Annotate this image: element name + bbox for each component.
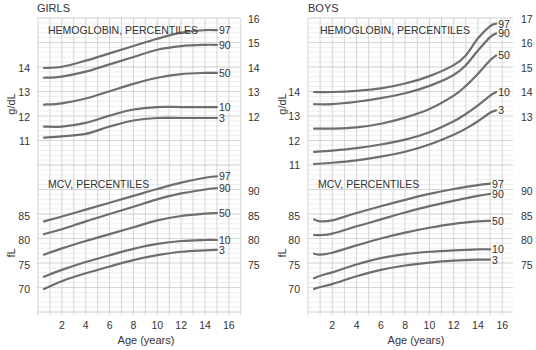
- percentile-label: 90: [219, 39, 231, 51]
- percentile-label: 50: [219, 207, 231, 219]
- y-tick-right: 85: [248, 210, 260, 222]
- girls-mcv-title: MCV, PERCENTILES: [48, 178, 149, 190]
- percentile-label: 3: [219, 244, 225, 256]
- girls-panel: 979050103979050103 246810121416111213141…: [5, 2, 260, 346]
- x-tick-label: 12: [448, 319, 460, 331]
- x-tick-label: 6: [378, 319, 384, 331]
- girls-xlabel: Age (years): [118, 334, 175, 346]
- percentile-label: 3: [492, 254, 498, 266]
- x-tick-label: 4: [354, 319, 360, 331]
- girls-curves: 979050103979050103: [44, 24, 231, 289]
- percentile-label: 97: [219, 24, 231, 36]
- y-tick-right: 16: [248, 13, 260, 25]
- x-tick-label: 14: [472, 319, 484, 331]
- y-tick-right: 75: [248, 259, 260, 271]
- percentile-label: 3: [219, 112, 225, 124]
- y-tick-left: 80: [288, 234, 300, 246]
- percentile-curve-3: [314, 260, 490, 289]
- percentile-label: 90: [219, 182, 231, 194]
- girls-grid: [37, 18, 241, 315]
- x-tick-label: 16: [223, 319, 235, 331]
- percentile-label: 90: [498, 27, 510, 39]
- y-tick-right: 75: [521, 259, 533, 271]
- girls-hgb-title: HEMOGLOBIN, PERCENTILES: [48, 24, 198, 36]
- girls-hgb-ylabel: g/dL: [5, 93, 17, 114]
- boys-mcv-title: MCV, PERCENTILES: [318, 178, 419, 190]
- y-tick-right: 13: [521, 111, 533, 123]
- y-tick-right: 80: [248, 234, 260, 246]
- y-tick-left: 14: [18, 62, 30, 74]
- percentile-label: 97: [219, 170, 231, 182]
- y-tick-right: 15: [521, 62, 533, 74]
- boys-mcv-ylabel: fL: [276, 248, 288, 257]
- y-tick-left: 70: [288, 283, 300, 295]
- percentile-label: 10: [498, 86, 510, 98]
- percentile-label: 50: [492, 215, 504, 227]
- x-tick-label: 8: [402, 319, 408, 331]
- boys-ticks: 2468101214161112131413141516177075808575…: [288, 13, 533, 331]
- x-tick-label: 10: [424, 319, 436, 331]
- y-tick-left: 14: [288, 86, 300, 98]
- y-tick-left: 12: [288, 135, 300, 147]
- percentile-curve-3: [44, 250, 217, 289]
- x-tick-label: 10: [151, 319, 163, 331]
- boys-hgb-ylabel: g/dL: [276, 93, 288, 114]
- x-tick-label: 14: [199, 319, 211, 331]
- percentile-label: 3: [498, 104, 504, 116]
- x-tick-label: 12: [175, 319, 187, 331]
- y-tick-left: 11: [19, 135, 30, 147]
- y-tick-left: 85: [18, 210, 30, 222]
- x-tick-label: 4: [83, 319, 89, 331]
- y-tick-right: 80: [521, 234, 533, 246]
- y-tick-right: 16: [521, 37, 533, 49]
- boys-title: BOYS: [308, 2, 339, 14]
- x-tick-label: 6: [107, 319, 113, 331]
- girls-mcv-ylabel: fL: [5, 248, 17, 257]
- x-tick-label: 2: [59, 319, 65, 331]
- y-tick-left: 75: [18, 259, 30, 271]
- boys-panel: 979050103979050103 246810121416111213141…: [276, 2, 533, 346]
- percentile-curve-10: [314, 249, 490, 278]
- y-tick-right: 17: [521, 13, 533, 25]
- y-tick-right: 14: [521, 86, 533, 98]
- x-tick-label: 16: [496, 319, 508, 331]
- y-tick-right: 90: [521, 185, 533, 197]
- y-tick-left: 12: [18, 111, 30, 123]
- percentile-curve-50: [44, 73, 217, 105]
- percentile-curve-10: [44, 107, 217, 127]
- y-tick-left: 11: [289, 159, 300, 171]
- percentile-label: 50: [219, 67, 231, 79]
- girls-title: GIRLS: [37, 2, 70, 14]
- percentile-label: 90: [492, 188, 504, 200]
- y-tick-left: 80: [18, 234, 30, 246]
- boys-xlabel: Age (years): [388, 334, 445, 346]
- percentile-label: 50: [498, 49, 510, 61]
- x-tick-label: 8: [131, 319, 137, 331]
- y-tick-left: 75: [288, 259, 300, 271]
- y-tick-right: 90: [248, 185, 260, 197]
- y-tick-right: 14: [248, 62, 260, 74]
- y-tick-right: 13: [248, 86, 260, 98]
- y-tick-left: 70: [18, 283, 30, 295]
- percentile-charts: 979050103979050103 246810121416111213141…: [0, 0, 536, 350]
- y-tick-left: 13: [18, 86, 30, 98]
- y-tick-right: 15: [248, 37, 260, 49]
- y-tick-left: 13: [288, 110, 300, 122]
- y-tick-right: 12: [248, 111, 260, 123]
- y-tick-left: 85: [288, 210, 300, 222]
- boys-hgb-title: HEMOGLOBIN, PERCENTILES: [320, 24, 470, 36]
- x-tick-label: 2: [329, 319, 335, 331]
- y-tick-right: 85: [521, 210, 533, 222]
